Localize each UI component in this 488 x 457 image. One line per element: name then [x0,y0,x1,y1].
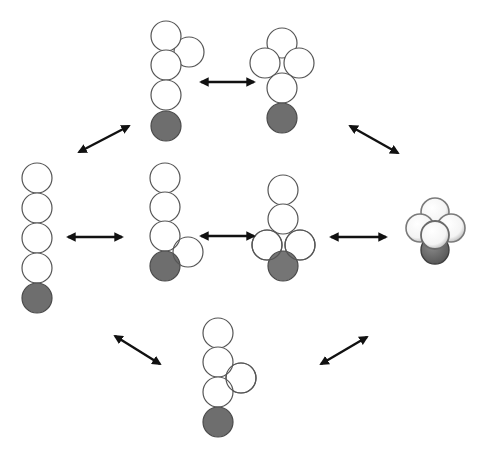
bead-icon [151,50,181,80]
bead-icon [151,80,181,110]
bead-icon [421,221,449,249]
node-mid-branch-lower [150,163,203,281]
bead-icon [22,163,52,193]
node-top-branch-upper [151,21,204,141]
dark-bead-icon [267,103,297,133]
dark-bead-icon [22,283,52,313]
bead-icon [22,193,52,223]
bead-icon [268,175,298,205]
node-linear-chain [22,163,52,313]
dark-bead-icon [268,251,298,281]
node-bottom-branch-middle [203,318,256,437]
dark-bead-icon [151,111,181,141]
bead-icon [22,223,52,253]
bead-icon [203,318,233,348]
edges [68,82,398,364]
node-top-cross [250,28,314,133]
bead-icon [203,347,233,377]
bead-icon [250,48,280,78]
dark-bead-icon [203,407,233,437]
double-arrow-icon [350,126,398,153]
bead-icon [150,163,180,193]
node-compact-3d [406,198,465,264]
double-arrow-icon [115,336,160,364]
double-arrow-icon [321,337,367,364]
bead-icon [173,237,203,267]
double-arrow-icon [79,126,129,152]
conformation-network-diagram [0,0,488,457]
bead-icon [150,192,180,222]
bead-icon [151,21,181,51]
bead-icon [203,377,233,407]
bead-icon [268,204,298,234]
bead-icon [267,73,297,103]
bead-icon [22,253,52,283]
bead-icon [284,48,314,78]
node-mid-tee [252,175,315,281]
